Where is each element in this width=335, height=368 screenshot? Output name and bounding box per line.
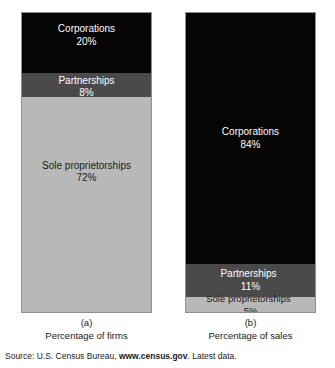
segment-percent: 20% (76, 36, 96, 49)
caption-text: Percentage of firms (21, 329, 152, 342)
bar-segment-corporations-firms: Corporations 20% (22, 13, 151, 73)
segment-percent: 5% (244, 305, 258, 313)
segment-percent: 72% (76, 172, 96, 185)
bar-segment-sole-proprietorships-firms: Sole proprietorships 72% (22, 97, 151, 312)
segment-percent: 11% (241, 281, 260, 294)
source-prefix: Source: U.S. Census Bureau, (5, 351, 119, 361)
source-website: www.census.gov (119, 351, 188, 361)
caption-text: Percentage of sales (185, 329, 316, 342)
segment-label: Partnerships (220, 268, 276, 281)
source-suffix: . Latest data. (188, 351, 237, 361)
source-note: Source: U.S. Census Bureau, www.census.g… (5, 350, 330, 362)
chart-captions: (a) Percentage of firms (b) Percentage o… (0, 316, 335, 344)
chart-percentage-of-sales: Corporations 84% Partnerships 11% Sole p… (185, 12, 316, 313)
segment-label: Sole proprietorships (42, 160, 131, 173)
bar-segment-partnerships-firms: Partnerships 8% (22, 73, 151, 97)
segment-percent: 84% (240, 139, 260, 152)
caption-chart-b: (b) Percentage of sales (185, 316, 316, 342)
caption-chart-a: (a) Percentage of firms (21, 316, 152, 342)
bar-segment-sole-proprietorships-sales: Sole proprietorships 5% (186, 297, 315, 312)
segment-label: Corporations (58, 23, 115, 36)
figure-two-stacked-bar-charts: Corporations 20% Partnerships 8% Sole pr… (0, 0, 335, 368)
caption-letter: (b) (185, 316, 316, 329)
chart-percentage-of-firms: Corporations 20% Partnerships 8% Sole pr… (21, 12, 152, 313)
segment-label: Sole proprietorships (206, 293, 291, 305)
segment-label: Corporations (222, 126, 279, 139)
caption-letter: (a) (21, 316, 152, 329)
bar-segment-corporations-sales: Corporations 84% (186, 13, 315, 264)
segment-label: Partnerships (58, 75, 114, 88)
